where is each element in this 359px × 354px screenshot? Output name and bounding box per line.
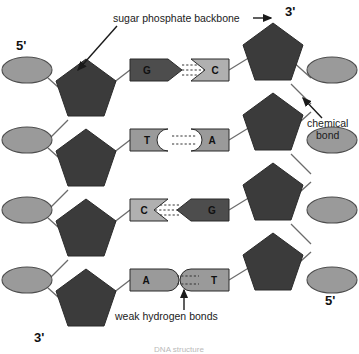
base-pair-row-1: G C bbox=[130, 59, 229, 81]
base-g-left bbox=[130, 59, 182, 81]
deoxyribose-sugar bbox=[56, 269, 116, 326]
deoxyribose-sugar bbox=[243, 23, 303, 80]
strand-left-phosphates bbox=[2, 57, 52, 293]
base-label-g: G bbox=[143, 65, 151, 76]
base-g-right bbox=[177, 199, 229, 221]
base-t-right bbox=[180, 269, 229, 291]
phosphate-group bbox=[2, 197, 52, 223]
hydrogen-bond-lines bbox=[172, 136, 196, 144]
phosphate-group bbox=[307, 267, 357, 293]
backbone-annotation-arrow-left bbox=[78, 26, 117, 70]
base-pair-row-4: A T bbox=[130, 269, 229, 291]
backbone-annotation-label: sugar phosphate backbone bbox=[113, 12, 240, 24]
end-label-bottom-left: 3' bbox=[34, 330, 44, 345]
base-label-c: C bbox=[211, 65, 218, 76]
end-label-top-left: 5' bbox=[16, 38, 26, 53]
strand-left-backbone-lines bbox=[48, 78, 68, 306]
deoxyribose-sugar bbox=[243, 93, 303, 150]
phosphate-group bbox=[2, 127, 52, 153]
deoxyribose-sugar bbox=[243, 163, 303, 220]
chemical-bond-arrow bbox=[303, 98, 322, 118]
end-label-bottom-right: 5' bbox=[325, 293, 335, 308]
dna-structure-diagram: G C T A C G bbox=[0, 0, 359, 354]
phosphate-group bbox=[307, 197, 357, 223]
base-c-left bbox=[130, 199, 168, 221]
deoxyribose-sugar bbox=[56, 129, 116, 186]
sugar-base-connectors bbox=[104, 54, 255, 300]
base-label-a: A bbox=[208, 135, 215, 146]
phosphate-group bbox=[307, 57, 357, 83]
chemical-bond-label-line1: chemical bbox=[307, 117, 348, 129]
base-pair-row-2: T A bbox=[130, 129, 229, 151]
base-pair-row-3: C G bbox=[130, 199, 229, 221]
base-label-c: C bbox=[140, 205, 147, 216]
base-label-a: A bbox=[142, 275, 149, 286]
strand-right-backbone-lines bbox=[291, 60, 311, 270]
phosphate-group bbox=[2, 57, 52, 83]
base-label-g: G bbox=[208, 205, 216, 216]
base-label-t: T bbox=[211, 275, 217, 286]
strand-right-phosphates bbox=[307, 57, 357, 293]
deoxyribose-sugar bbox=[243, 233, 303, 290]
deoxyribose-sugar bbox=[56, 199, 116, 256]
chemical-bond-label-line2: bond bbox=[316, 129, 340, 141]
base-a-left bbox=[130, 269, 179, 291]
end-label-top-right: 3' bbox=[285, 4, 295, 19]
dna-diagram-canvas: G C T A C G bbox=[0, 0, 359, 354]
base-label-t: T bbox=[144, 135, 150, 146]
hydrogen-bonds-label: weak hydrogen bonds bbox=[114, 310, 218, 322]
phosphate-group bbox=[2, 267, 52, 293]
deoxyribose-sugar bbox=[56, 59, 116, 116]
figure-caption: DNA structure bbox=[154, 345, 204, 354]
